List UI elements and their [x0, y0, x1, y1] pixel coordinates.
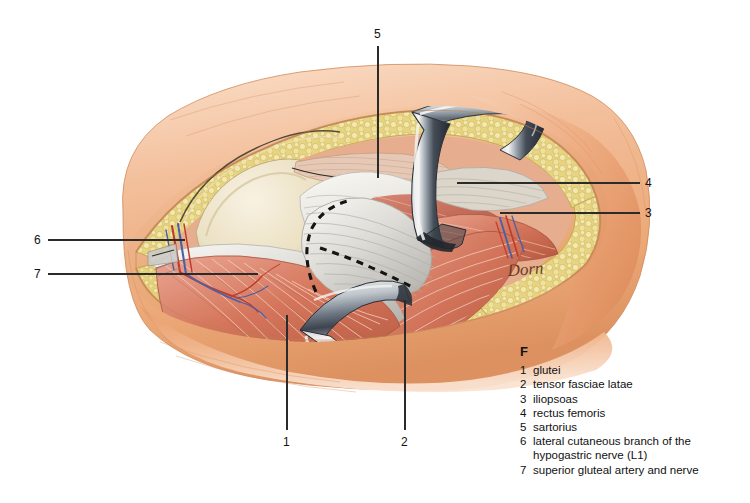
legend-text-6: lateral cutaneous branch of the [533, 434, 748, 448]
legend-text-7: superior gluteal artery and nerve [533, 463, 748, 477]
artist-signature: Dorn [506, 259, 544, 281]
callout-number-5: 5 [374, 28, 381, 40]
callout-number-4: 4 [645, 177, 652, 189]
figure-page: Dorn 5 4 3 6 7 1 2 F 1 glutei 2 tensor f… [0, 0, 750, 503]
legend-text-5: sartorius [533, 420, 748, 434]
legend-index-5: 5 [520, 420, 533, 434]
legend-item-1: 1 glutei [520, 363, 748, 377]
legend-item-2: 2 tensor fasciae latae [520, 377, 748, 391]
legend-index-2: 2 [520, 377, 533, 391]
legend-title: F [520, 345, 748, 359]
callout-number-6: 6 [34, 234, 41, 246]
signature-text: Dorn [506, 259, 544, 281]
legend-item-6: 6 lateral cutaneous branch of the [520, 434, 748, 448]
legend-item-7: 7 superior gluteal artery and nerve [520, 463, 748, 477]
legend-text-3: iliopsoas [533, 392, 748, 406]
legend-index-7: 7 [520, 463, 533, 477]
callout-number-3: 3 [645, 207, 652, 219]
legend-item-5: 5 sartorius [520, 420, 748, 434]
legend-item-3: 3 iliopsoas [520, 392, 748, 406]
legend-index-1: 1 [520, 363, 533, 377]
figure-legend: F 1 glutei 2 tensor fasciae latae 3 ilio… [520, 345, 748, 477]
legend-index-6: 6 [520, 434, 533, 448]
legend-index-3: 3 [520, 392, 533, 406]
legend-text-6-continued: hypogastric nerve (L1) [533, 448, 748, 462]
legend-item-4: 4 rectus femoris [520, 406, 748, 420]
legend-text-4: rectus femoris [533, 406, 748, 420]
legend-index-4: 4 [520, 406, 533, 420]
callout-number-2: 2 [401, 436, 408, 448]
callout-number-7: 7 [34, 268, 41, 280]
callout-number-1: 1 [283, 436, 290, 448]
legend-text-2: tensor fasciae latae [533, 377, 748, 391]
legend-text-1: glutei [533, 363, 748, 377]
